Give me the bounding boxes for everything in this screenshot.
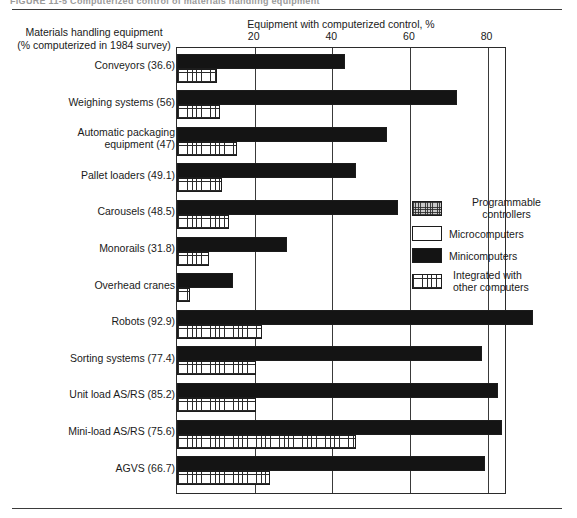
bar-segment-integrated-with-other-computers [177, 325, 262, 339]
figure-caption: FIGURE 11-5 Computerized control of mate… [0, 0, 577, 8]
bar-segment-integrated-with-other-computers [177, 435, 356, 449]
category-label: AGVS (66.7) [0, 462, 175, 475]
category-label: Monorails (31.8) [0, 242, 175, 255]
bar-segment-minicomputers [177, 54, 345, 69]
legend-item: Integrated withother computers [412, 269, 564, 293]
legend-item: Programmablecontrollers [412, 196, 564, 220]
bar-segment-minicomputers [177, 310, 533, 325]
bar-group [177, 383, 505, 412]
legend-swatch-crosshatch-gray-swatch [412, 201, 442, 216]
bar-segment-integrated-with-other-computers [177, 288, 190, 302]
bar-group [177, 163, 505, 192]
category-label: Sorting systems (77.4) [0, 352, 175, 365]
legend-label: Programmablecontrollers [449, 196, 564, 220]
legend-label: Integrated withother computers [449, 269, 564, 293]
bar-segment-minicomputers [177, 163, 356, 178]
category-label: Robots (92.9) [0, 315, 175, 328]
category-label: Conveyors (36.6) [0, 59, 175, 72]
bar-group [177, 420, 505, 449]
x-axis-title: Equipment with computerized control, % [176, 18, 506, 30]
category-label-line1: Unit load AS/RS (85.2) [0, 388, 175, 401]
bar-segment-integrated-with-other-computers [177, 361, 256, 375]
category-label: Unit load AS/RS (85.2) [0, 388, 175, 401]
legend-label-line1: Integrated with [453, 269, 564, 281]
bar-segment-integrated-with-other-computers [177, 398, 256, 412]
category-label-line1: Robots (92.9) [0, 315, 175, 328]
category-label: Automatic packagingequipment (47) [0, 126, 175, 151]
category-label: Overhead cranes [0, 279, 175, 292]
y-axis-title: Materials handling equipment (% computer… [8, 26, 180, 52]
category-label-line1: Overhead cranes [0, 279, 175, 292]
category-label-line1: Pallet loaders (49.1) [0, 169, 175, 182]
legend-label-line1: Microcomputers [449, 228, 564, 240]
bar-segment-integrated-with-other-computers [177, 471, 270, 485]
bar-group [177, 310, 505, 339]
legend-item: Minicomputers [412, 247, 564, 264]
legend-label-line2: other computers [453, 281, 564, 293]
legend-item: Microcomputers [412, 225, 564, 242]
bar-segment-integrated-with-other-computers [177, 215, 229, 229]
bar-segment-minicomputers [177, 200, 398, 215]
bar-segment-minicomputers [177, 383, 498, 398]
chart-legend: ProgrammablecontrollersMicrocomputersMin… [412, 196, 564, 298]
category-label: Mini-load AS/RS (75.6) [0, 425, 175, 438]
category-label: Pallet loaders (49.1) [0, 169, 175, 182]
category-label-line1: AGVS (66.7) [0, 462, 175, 475]
figure-caption-text: FIGURE 11-5 Computerized control of mate… [10, 0, 320, 6]
bar-segment-minicomputers [177, 346, 482, 361]
bar-segment-integrated-with-other-computers [177, 142, 237, 156]
bottom-divider-rule [12, 508, 562, 509]
x-tick-label-60: 60 [403, 30, 415, 42]
legend-label: Minicomputers [449, 250, 564, 262]
category-label-line1: Weighing systems (56) [0, 96, 175, 109]
category-label-line1: Monorails (31.8) [0, 242, 175, 255]
bar-segment-integrated-with-other-computers [177, 252, 209, 266]
y-axis-title-line2: (% computerized in 1984 survey) [8, 39, 180, 52]
x-tick-label-20: 20 [248, 30, 260, 42]
category-label-line1: Conveyors (36.6) [0, 59, 175, 72]
legend-label-line1: Minicomputers [449, 250, 564, 262]
category-label-line1: Mini-load AS/RS (75.6) [0, 425, 175, 438]
bar-group [177, 346, 505, 375]
bar-segment-minicomputers [177, 420, 502, 435]
x-tick-label-80: 80 [481, 30, 493, 42]
bar-segment-minicomputers [177, 90, 457, 105]
bar-group [177, 90, 505, 119]
category-label: Carousels (48.5) [0, 205, 175, 218]
bar-segment-integrated-with-other-computers [177, 69, 217, 83]
category-label-line2: equipment (47) [0, 138, 175, 151]
category-label-line1: Carousels (48.5) [0, 205, 175, 218]
bar-group [177, 127, 505, 156]
legend-label-line1: Programmable [449, 196, 564, 208]
bar-group [177, 456, 505, 485]
legend-swatch-grid-hatch-swatch [412, 274, 442, 289]
bar-segment-minicomputers [177, 456, 485, 471]
category-label: Weighing systems (56) [0, 96, 175, 109]
category-label-line1: Sorting systems (77.4) [0, 352, 175, 365]
bar-segment-minicomputers [177, 273, 233, 288]
top-divider-rule [12, 9, 562, 10]
legend-label-line2: controllers [449, 208, 564, 220]
y-axis-title-line1: Materials handling equipment [8, 26, 180, 39]
bar-segment-integrated-with-other-computers [177, 105, 220, 119]
legend-swatch-white-swatch [412, 226, 442, 241]
bar-segment-minicomputers [177, 127, 387, 142]
x-tick-label-40: 40 [325, 30, 337, 42]
legend-swatch-black-swatch [412, 248, 442, 263]
category-label-line1: Automatic packaging [0, 126, 175, 139]
bar-segment-minicomputers [177, 237, 287, 252]
bar-segment-integrated-with-other-computers [177, 178, 222, 192]
bar-group [177, 54, 505, 83]
legend-label: Microcomputers [449, 228, 564, 240]
